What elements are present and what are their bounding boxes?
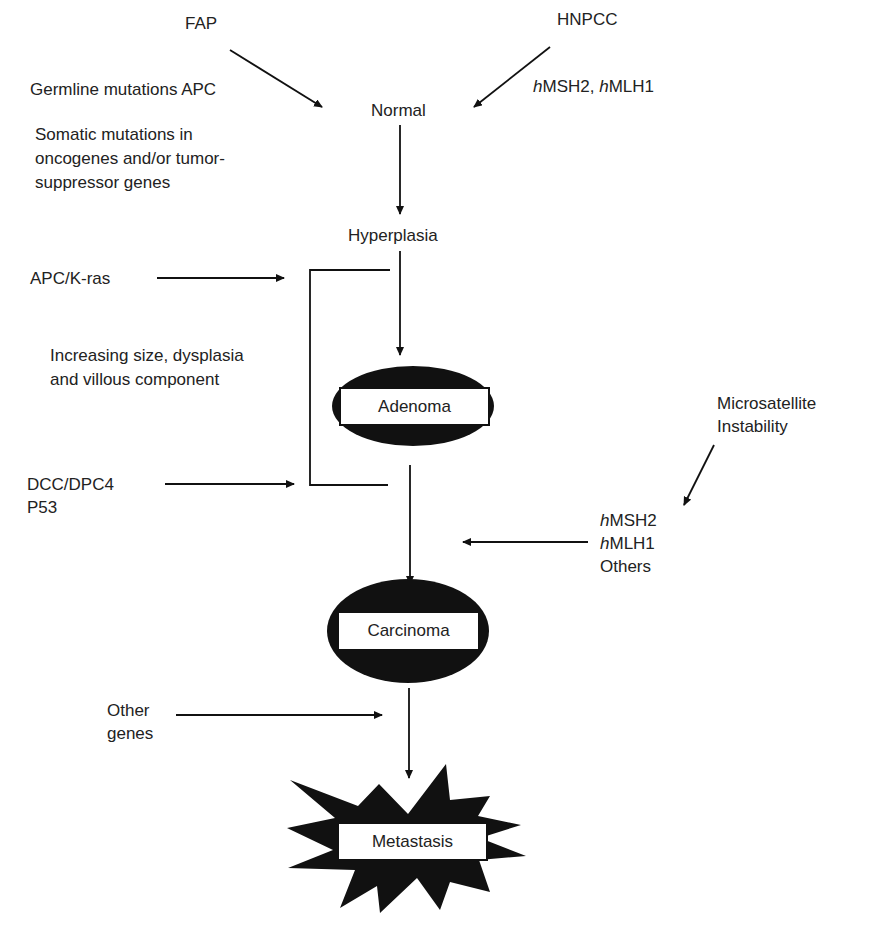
stage-metastasis: Metastasis — [337, 822, 488, 861]
germline-label: Germline mutations APC — [30, 79, 216, 100]
p53-label: P53 — [27, 497, 57, 518]
somatic-line-1: Somatic mutations in — [35, 124, 193, 145]
stage-normal: Normal — [371, 100, 426, 121]
gene-name: MSH2 — [609, 511, 656, 530]
hnpcc-label: HNPCC — [557, 9, 617, 30]
increasing-line-2: and villous component — [50, 369, 219, 390]
gene-name: MSH2, — [542, 77, 599, 96]
other-genes-line-1: Other — [107, 700, 150, 721]
gene-name: Others — [600, 557, 651, 576]
diagram-canvas: FAP HNPCC hMSH2, hMLH1 Germline mutation… — [0, 0, 870, 939]
stage-hyperplasia: Hyperplasia — [348, 225, 438, 246]
gene-name: MLH1 — [609, 534, 654, 553]
hnpcc-genes-label: hMSH2, hMLH1 — [533, 76, 654, 97]
msi-line-2: Instability — [717, 416, 788, 437]
somatic-line-2: oncogenes and/or tumor- — [35, 148, 225, 169]
msi-gene-hmsh2: hMSH2 — [600, 510, 657, 531]
msi-gene-others: Others — [600, 556, 651, 577]
stage-carcinoma: Carcinoma — [337, 611, 480, 651]
gene-prefix: h — [599, 77, 608, 96]
dcc-dpc4-label: DCC/DPC4 — [27, 474, 114, 495]
increasing-line-1: Increasing size, dysplasia — [50, 345, 244, 366]
somatic-line-3: suppressor genes — [35, 172, 170, 193]
arrow-fap-to-normal — [230, 50, 322, 107]
other-genes-line-2: genes — [107, 723, 153, 744]
arrow-msi — [684, 445, 714, 505]
stage-adenoma: Adenoma — [339, 387, 490, 426]
fap-label: FAP — [185, 13, 217, 34]
apc-kras-label: APC/K-ras — [30, 268, 110, 289]
msi-gene-hmlh1: hMLH1 — [600, 533, 655, 554]
msi-line-1: Microsatellite — [717, 393, 816, 414]
gene-name: MLH1 — [609, 77, 654, 96]
